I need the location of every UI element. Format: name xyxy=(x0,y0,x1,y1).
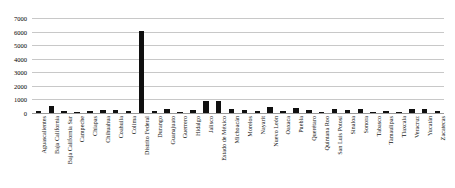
x-tick-label: Estado de México xyxy=(221,116,228,161)
y-axis-tick-labels: 70006000500040003000200010000 xyxy=(0,18,30,113)
x-tick-label: Hidalgo xyxy=(195,116,202,136)
bar-rect xyxy=(100,110,105,113)
x-tick-label: Zacatecas xyxy=(440,116,447,140)
bar-rect xyxy=(319,112,324,114)
bar-rect xyxy=(229,109,234,113)
x-tick-label: Oaxaca xyxy=(285,116,292,135)
bar xyxy=(293,18,298,113)
plot-area xyxy=(32,18,444,113)
x-tick-label: Yucatán xyxy=(427,116,434,136)
bar-series xyxy=(32,18,444,113)
bar xyxy=(100,18,105,113)
x-tick-label: Coahuila xyxy=(118,116,125,138)
bar-rect xyxy=(36,111,41,113)
bar xyxy=(203,18,208,113)
bar-rect xyxy=(255,111,260,113)
bar xyxy=(422,18,427,113)
y-tick-label: 6000 xyxy=(14,28,27,35)
x-tick-label: Puebla xyxy=(298,116,305,133)
bar-rect xyxy=(293,108,298,113)
bar-rect xyxy=(190,110,195,113)
bar xyxy=(139,18,144,113)
bar xyxy=(435,18,440,113)
x-tick-label: Querétaro xyxy=(311,116,318,141)
bar-rect xyxy=(345,110,350,113)
bar-rect xyxy=(358,109,363,113)
bar-rect xyxy=(87,111,92,113)
bar xyxy=(61,18,66,113)
x-tick-label: Tlaxcala xyxy=(401,116,408,137)
bar-rect xyxy=(74,112,79,114)
y-tick-label: 3000 xyxy=(14,69,27,76)
y-tick-label: 2000 xyxy=(14,82,27,89)
bar xyxy=(383,18,388,113)
bar-rect xyxy=(435,111,440,113)
x-tick-label: Durango xyxy=(157,116,164,138)
bar-rect xyxy=(422,109,427,113)
bar xyxy=(267,18,272,113)
bar xyxy=(306,18,311,113)
bar xyxy=(74,18,79,113)
bar-rect xyxy=(267,107,272,113)
x-tick-label: Campeche xyxy=(79,116,86,142)
x-tick-label: Jalisco xyxy=(208,116,215,133)
bar-rect xyxy=(203,101,208,113)
x-tick-label: Guerrero xyxy=(182,116,189,138)
x-tick-label: Chihuahua xyxy=(105,116,112,143)
x-tick-label: Chiapas xyxy=(92,116,99,136)
x-tick-label: Baja California Sur xyxy=(67,116,74,164)
bar-rect xyxy=(409,109,414,113)
x-tick-label: San Luis Potosí xyxy=(337,116,344,155)
bar xyxy=(409,18,414,113)
bar xyxy=(358,18,363,113)
bar-rect xyxy=(280,111,285,113)
bar xyxy=(113,18,118,113)
bar xyxy=(345,18,350,113)
bar-rect xyxy=(152,111,157,113)
x-tick-label: Colima xyxy=(131,116,138,134)
x-tick-label: Sonora xyxy=(363,116,370,134)
axis-baseline xyxy=(32,113,444,114)
x-tick-label: Nayarit xyxy=(260,116,267,135)
y-tick-label: 0 xyxy=(24,110,27,117)
bar xyxy=(49,18,54,113)
bar xyxy=(319,18,324,113)
bar-rect xyxy=(242,110,247,113)
x-tick-label: Tamaulipas xyxy=(388,116,395,144)
bar xyxy=(164,18,169,113)
x-tick-label: Quintana Roo xyxy=(324,116,331,151)
bar-rect xyxy=(61,111,66,113)
x-tick-label: Aguascalientes xyxy=(41,116,48,153)
x-axis-tick-labels: AguascalientesBaja CaliforniaBaja Califo… xyxy=(32,116,444,188)
y-tick-label: 1000 xyxy=(14,96,27,103)
x-tick-label: Sinaloa xyxy=(350,116,357,135)
y-tick-label: 7000 xyxy=(14,15,27,22)
bar xyxy=(242,18,247,113)
bar xyxy=(229,18,234,113)
bar xyxy=(177,18,182,113)
y-tick-label: 4000 xyxy=(14,55,27,62)
bar xyxy=(152,18,157,113)
bar-rect xyxy=(306,110,311,113)
bar xyxy=(126,18,131,113)
x-tick-label: Veracruz xyxy=(414,116,421,138)
bar-rect xyxy=(332,109,337,113)
bar-rect xyxy=(177,112,182,114)
bar xyxy=(216,18,221,113)
bar-rect xyxy=(49,106,54,113)
bar xyxy=(255,18,260,113)
x-tick-label: Nuevo León xyxy=(273,116,280,147)
bar xyxy=(190,18,195,113)
bar-rect xyxy=(139,31,144,113)
bar-rect xyxy=(216,101,221,113)
bar xyxy=(280,18,285,113)
bar-rect xyxy=(164,109,169,113)
x-tick-label: Michoacán xyxy=(234,116,241,144)
x-tick-label: Guanajuato xyxy=(170,116,177,145)
x-tick-label: Morelos xyxy=(247,116,254,137)
bar xyxy=(36,18,41,113)
bar-rect xyxy=(126,111,131,113)
bar-rect xyxy=(113,110,118,113)
bar xyxy=(87,18,92,113)
bar xyxy=(370,18,375,113)
